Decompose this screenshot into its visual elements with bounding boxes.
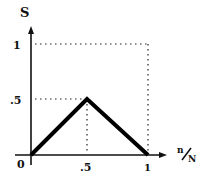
series-s-line: [31, 99, 148, 155]
y-tick-1: 1: [13, 39, 21, 52]
x-tick-half: .5: [80, 161, 91, 174]
x-tick-1: 1: [144, 162, 151, 173]
x-axis-arrow-icon: [159, 152, 167, 158]
y-axis-label: S: [20, 5, 29, 20]
origin-label: 0: [17, 158, 25, 171]
chart-canvas: S 1 .5 0 .5 1 n N: [0, 0, 209, 181]
y-axis-arrow-icon: [28, 26, 34, 34]
x-axis-label-N: N: [188, 154, 196, 164]
x-axis-label: n N: [177, 145, 196, 164]
y-tick-half: .5: [10, 94, 21, 107]
x-axis-label-n: n: [177, 145, 184, 155]
